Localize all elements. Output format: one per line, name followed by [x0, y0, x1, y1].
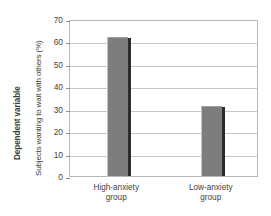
- y-axis-tick-labels: 010203040506070: [47, 20, 63, 177]
- gridline: [70, 111, 257, 112]
- bar: [201, 106, 222, 176]
- bar-chart-figure: Dependent variable Subjects wanting to w…: [0, 0, 271, 216]
- y-axis-tick-label: 50: [47, 61, 63, 69]
- x-axis-label-line: group: [73, 193, 159, 203]
- y-axis-tick-mark: [66, 156, 70, 157]
- y-axis-tick-mark: [66, 66, 70, 67]
- y-axis-tick-mark: [66, 111, 70, 112]
- y-axis-tick-label: 0: [47, 173, 63, 181]
- y-axis-tick-mark: [66, 21, 70, 22]
- y-axis-title: Subjects wanting to wait with others (%): [35, 41, 43, 176]
- bar: [107, 37, 128, 176]
- y-axis-tick-label: 40: [47, 83, 63, 91]
- x-axis-label-line: group: [168, 193, 254, 203]
- gridline: [70, 43, 257, 44]
- plot-area: [69, 20, 258, 177]
- gridline: [70, 66, 257, 67]
- x-axis-category-label: High-anxietygroup: [73, 183, 159, 203]
- y-axis-tick-label: 20: [47, 128, 63, 136]
- y-axis-tick-mark: [66, 43, 70, 44]
- x-axis-category-label: Low-anxietygroup: [168, 183, 254, 203]
- bar-shadow: [128, 38, 131, 176]
- y-axis-tick-label: 30: [47, 106, 63, 114]
- y-axis-tick-label: 70: [47, 16, 63, 24]
- y-axis-tick-mark: [66, 178, 70, 179]
- gridline: [70, 88, 257, 89]
- dependent-variable-axis-group-label: Dependent variable: [14, 86, 22, 160]
- gridline: [70, 133, 257, 134]
- y-axis-tick-mark: [66, 133, 70, 134]
- x-axis-label-line: High-anxiety: [73, 183, 159, 193]
- bar-shadow: [222, 107, 225, 176]
- x-axis-label-line: Low-anxiety: [168, 183, 254, 193]
- y-axis-tick-label: 60: [47, 38, 63, 46]
- y-axis-tick-label: 10: [47, 150, 63, 158]
- y-axis-tick-mark: [66, 88, 70, 89]
- gridline: [70, 156, 257, 157]
